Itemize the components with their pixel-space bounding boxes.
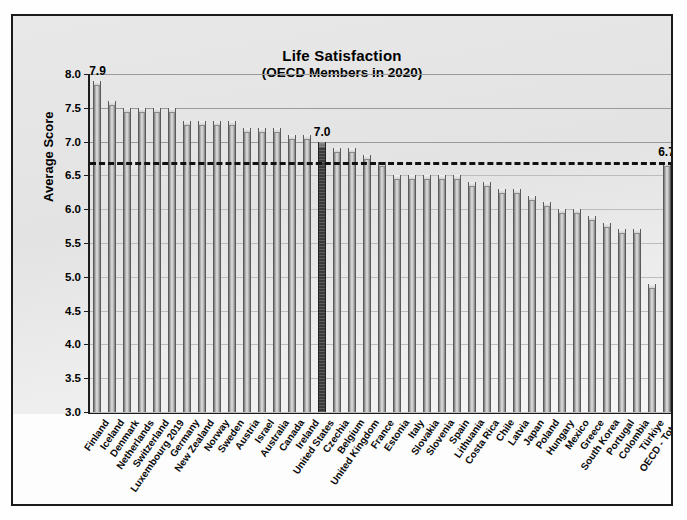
x-axis-label[interactable]: Spain <box>463 418 471 424</box>
bar[interactable] <box>558 209 566 412</box>
x-axis-label[interactable]: Türkiye <box>658 418 666 424</box>
bar[interactable] <box>318 142 326 412</box>
bar[interactable] <box>378 162 386 412</box>
bar[interactable] <box>258 128 266 412</box>
bar[interactable] <box>228 121 236 412</box>
x-axis-label[interactable]: Slovakia <box>433 418 441 424</box>
bar-cap <box>124 108 130 113</box>
bar[interactable] <box>468 182 476 412</box>
y-axis-tick <box>84 311 90 312</box>
bar[interactable] <box>273 128 281 412</box>
bar[interactable] <box>333 148 341 412</box>
bar[interactable] <box>93 81 101 412</box>
x-axis-label[interactable]: Canada <box>298 418 306 424</box>
y-axis-tick-label: 3.5 <box>65 372 81 384</box>
x-axis-label[interactable]: Hungary <box>568 418 576 424</box>
plot-area: 8.07.57.06.56.05.55.04.54.03.53.07.97.06… <box>90 74 673 412</box>
bar[interactable] <box>348 148 356 412</box>
bar[interactable] <box>108 101 116 412</box>
x-axis-label[interactable]: New Zealand <box>208 418 216 424</box>
bar[interactable] <box>513 189 521 412</box>
bar[interactable] <box>168 108 176 412</box>
x-axis-label[interactable]: Austria <box>253 418 261 424</box>
bar-cap <box>574 209 580 214</box>
bar[interactable] <box>213 121 221 412</box>
bar[interactable] <box>618 229 626 412</box>
x-axis-label[interactable]: Israel <box>268 418 276 424</box>
y-axis-tick-label: 8.0 <box>65 68 81 80</box>
x-axis-label[interactable]: Australia <box>283 418 291 424</box>
bar[interactable] <box>438 175 446 412</box>
x-axis-label[interactable]: France <box>388 418 396 424</box>
bar-cap <box>619 229 625 234</box>
x-axis-label[interactable]: Costa Rica <box>493 418 501 424</box>
value-annotation: 6.7 <box>658 145 673 159</box>
gridline <box>90 108 673 109</box>
x-axis-label[interactable]: Sweden <box>238 418 246 424</box>
bar-cap <box>514 189 520 194</box>
bar[interactable] <box>498 189 506 412</box>
x-axis-label[interactable]: Greece <box>598 418 606 424</box>
bar-cap <box>94 81 100 86</box>
x-axis-label[interactable]: Lithuania <box>478 418 486 424</box>
bar[interactable] <box>648 284 656 412</box>
x-axis-label[interactable]: Mexico <box>583 418 591 424</box>
bar[interactable] <box>138 108 146 412</box>
bar[interactable] <box>393 175 401 412</box>
x-axis-label[interactable]: Estonia <box>403 418 411 424</box>
bar-cap <box>529 196 535 201</box>
bar[interactable] <box>198 121 206 412</box>
x-axis-label[interactable]: Ireland <box>313 418 321 424</box>
bar[interactable] <box>543 202 551 412</box>
x-axis-label[interactable]: Chile <box>508 418 516 424</box>
x-axis-label[interactable]: Norway <box>223 418 231 424</box>
bar[interactable] <box>363 155 371 412</box>
bar-cap <box>484 182 490 187</box>
x-axis-label[interactable]: Finland <box>103 418 111 424</box>
bar[interactable] <box>183 121 191 412</box>
x-axis-label[interactable]: Iceland <box>118 418 126 424</box>
x-axis-label[interactable]: Switzerland <box>163 418 171 424</box>
bar[interactable] <box>528 196 536 412</box>
bar-cap <box>349 148 355 153</box>
bar[interactable] <box>633 229 641 412</box>
x-axis-label[interactable]: Latvia <box>523 418 531 424</box>
bar[interactable] <box>603 223 611 412</box>
bar[interactable] <box>123 108 131 412</box>
x-axis-label[interactable]: United States <box>328 418 336 424</box>
x-axis-label[interactable]: Czechia <box>343 418 351 424</box>
bar-cap <box>364 155 370 160</box>
x-axis-label[interactable]: Japan <box>538 418 546 424</box>
bar-cap <box>304 135 310 140</box>
bar[interactable] <box>573 209 581 412</box>
bar-cap <box>649 284 655 289</box>
y-axis-tick-label: 4.0 <box>65 338 81 350</box>
bar[interactable] <box>453 175 461 412</box>
bar-cap <box>184 121 190 126</box>
x-axis-label[interactable]: United Kingdom <box>373 418 381 424</box>
bar[interactable] <box>423 175 431 412</box>
x-axis-label[interactable]: South Korea <box>613 418 621 424</box>
y-axis-tick-label: 5.0 <box>65 271 81 283</box>
bar[interactable] <box>303 135 311 412</box>
x-axis-label[interactable]: Colombia <box>643 418 651 424</box>
x-axis-label[interactable]: Netherlands <box>148 418 156 424</box>
bar[interactable] <box>483 182 491 412</box>
bar[interactable] <box>243 128 251 412</box>
bar[interactable] <box>408 175 416 412</box>
x-axis-label[interactable]: Slovenia <box>448 418 456 424</box>
x-axis-label[interactable]: Poland <box>553 418 561 424</box>
x-axis-label[interactable]: Germany <box>193 418 201 424</box>
y-axis-tick-label: 7.0 <box>65 136 81 148</box>
bar[interactable] <box>663 162 671 412</box>
x-axis-label[interactable]: Luxembourg 2019 <box>178 418 186 424</box>
x-axis-label[interactable]: Belgium <box>358 418 366 424</box>
x-axis-label[interactable]: Denmark <box>133 418 141 424</box>
bar[interactable] <box>153 108 161 412</box>
x-axis-label[interactable]: Italy <box>418 418 426 424</box>
x-axis-label[interactable]: OECD - Total <box>673 418 674 424</box>
bar[interactable] <box>288 135 296 412</box>
bar[interactable] <box>588 216 596 412</box>
bar-cap <box>604 223 610 228</box>
x-axis-label[interactable]: Portugal <box>628 418 636 424</box>
